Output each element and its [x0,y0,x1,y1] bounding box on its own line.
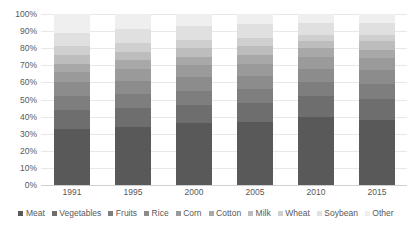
bar-segment[interactable] [359,14,395,23]
bar-segment[interactable] [54,64,90,73]
bar-segment[interactable] [54,55,90,64]
bar-segment[interactable] [237,64,273,76]
bar-segment[interactable] [237,122,273,185]
legend-item[interactable]: Meat [18,209,44,218]
legend-item[interactable]: Fruits [108,209,137,218]
bar-segment[interactable] [176,57,212,66]
bar-segment[interactable] [359,41,395,50]
clipped-text-artifact [0,0,412,9]
bar-column[interactable] [237,14,273,185]
bar-segment[interactable] [176,91,212,105]
bar-segment[interactable] [115,108,151,127]
legend-item[interactable]: Vegetables [52,209,102,218]
bar-segment[interactable] [298,41,334,48]
bar-column[interactable] [115,14,151,185]
bar-segment[interactable] [54,14,90,33]
y-axis: 100%90%80%70%60%50%40%30%20%10%0% [0,9,40,194]
bar-segment[interactable] [54,33,90,47]
bar-segment[interactable] [176,105,212,124]
legend-item[interactable]: Corn [176,209,202,218]
legend-swatch-icon [248,211,253,216]
bar-column[interactable] [54,14,90,185]
legend-item[interactable]: Milk [248,209,271,218]
bar-segment[interactable] [176,26,212,40]
bar-segment[interactable] [115,81,151,95]
bar-column[interactable] [298,14,334,185]
bar-segment[interactable] [237,89,273,103]
bar-segment[interactable] [237,103,273,122]
bar-segment[interactable] [237,24,273,38]
legend-swatch-icon [317,211,322,216]
bar-segment[interactable] [115,127,151,185]
bar-segment[interactable] [298,14,334,23]
bar-segment[interactable] [359,58,395,70]
bar-segment[interactable] [54,72,90,82]
bar-segment[interactable] [359,70,395,84]
stacked-bar-chart: 100%90%80%70%60%50%40%30%20%10%0% 199119… [0,0,412,227]
legend-item[interactable]: Rice [144,209,169,218]
bar-segment[interactable] [298,23,334,35]
y-axis-tick-label: 20% [20,147,37,156]
bar-segment[interactable] [115,94,151,108]
legend-item-label: Wheat [285,209,310,218]
bar-segment[interactable] [176,123,212,185]
bar-segment[interactable] [237,76,273,90]
x-axis-tick-label: 2000 [164,187,224,197]
bar-segment[interactable] [176,65,212,77]
bar-segment[interactable] [237,46,273,55]
bar-segment[interactable] [54,82,90,96]
gridline [41,151,407,152]
bar-segment[interactable] [176,14,212,26]
legend-item[interactable]: Cotton [209,209,242,218]
bar-segment[interactable] [359,50,395,59]
plot-wrapper: 100%90%80%70%60%50%40%30%20%10%0% 199119… [0,9,412,194]
bar-segment[interactable] [298,35,334,42]
bar-segment[interactable] [298,117,334,185]
bar-segment[interactable] [359,23,395,35]
bar-segment[interactable] [359,84,395,99]
bar-segment[interactable] [359,35,395,42]
bar-segment[interactable] [298,96,334,117]
legend-item[interactable]: Soybean [317,209,358,218]
bar-segment[interactable] [54,110,90,129]
bar-segment[interactable] [54,46,90,55]
y-axis-tick-label: 100% [15,10,37,19]
bar-segment[interactable] [298,69,334,83]
bar-segment[interactable] [115,52,151,61]
bar-column[interactable] [359,14,395,185]
y-axis-tick-label: 40% [20,113,37,122]
x-axis-tick-label: 2010 [286,187,346,197]
bar-segment[interactable] [359,99,395,120]
bar-segment[interactable] [237,14,273,24]
bar-column[interactable] [176,14,212,185]
legend-swatch-icon [278,211,283,216]
bar-segment[interactable] [298,82,334,96]
legend-item[interactable]: Wheat [278,209,310,218]
bar-segment[interactable] [176,40,212,49]
legend-swatch-icon [209,211,214,216]
gridline [41,82,407,83]
y-axis-tick-label: 80% [20,44,37,53]
legend-swatch-icon [52,211,57,216]
bar-segment[interactable] [298,48,334,57]
bar-segment[interactable] [115,60,151,69]
bar-segment[interactable] [115,14,151,29]
bar-segment[interactable] [54,129,90,185]
bar-segment[interactable] [115,69,151,81]
bar-segment[interactable] [237,38,273,47]
bar-segment[interactable] [298,57,334,69]
bar-segment[interactable] [54,96,90,110]
x-axis: 199119952000200520102015 [41,187,407,201]
bar-segment[interactable] [115,43,151,52]
y-axis-tick-label: 60% [20,78,37,87]
legend-item-label: Fruits [116,209,137,218]
bar-segment[interactable] [237,55,273,64]
gridline [41,134,407,135]
chart-legend: MeatVegetablesFruitsRiceCornCottonMilkWh… [0,203,412,223]
bar-segment[interactable] [176,77,212,91]
bar-segment[interactable] [176,48,212,57]
y-axis-tick-label: 0% [25,181,37,190]
bar-segment[interactable] [359,120,395,185]
bar-segment[interactable] [115,29,151,43]
legend-item[interactable]: Other [365,209,394,218]
